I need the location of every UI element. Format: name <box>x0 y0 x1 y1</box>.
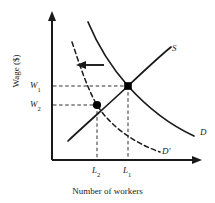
x-axis-label: Number of workers <box>0 186 215 196</box>
wage-tick-label-w2: W2 <box>30 100 41 111</box>
workers-tick-label-l2: L2 <box>92 166 100 177</box>
supply-curve <box>68 47 171 141</box>
workers-tick-label-l1: L1 <box>123 166 131 177</box>
demand-curve-label: D <box>200 128 207 137</box>
new-equilibrium-marker <box>93 101 101 109</box>
y-axis-label: Wage ($) <box>11 39 21 103</box>
supply-curve-label: S <box>172 44 177 53</box>
w1-subscript: 1 <box>38 86 41 93</box>
w2-symbol: W <box>30 99 38 109</box>
supply-demand-figure: Wage ($) Number of workers W1 W2 L2 L1 S… <box>0 0 215 203</box>
l2-subscript: 2 <box>97 171 100 178</box>
x-axis-label-text: Number of workers <box>72 186 142 196</box>
l1-subscript: 1 <box>128 171 131 178</box>
demand-shifted-curve-label: D′ <box>162 147 170 156</box>
y-axis-arrowhead <box>48 11 56 21</box>
initial-equilibrium-marker <box>124 82 132 90</box>
y-axis-label-text: Wage ($) <box>11 55 21 88</box>
demand-curve <box>88 22 194 136</box>
w2-subscript: 2 <box>38 105 41 112</box>
wage-tick-label-w1: W1 <box>30 81 41 92</box>
x-axis-arrowhead <box>192 156 202 164</box>
w1-symbol: W <box>30 80 38 90</box>
